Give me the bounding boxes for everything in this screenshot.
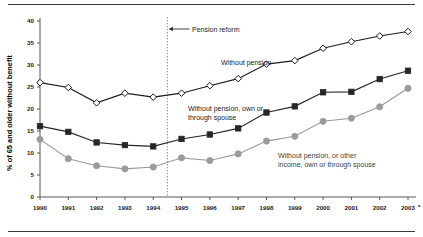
x-tick-label: 1999 bbox=[288, 204, 302, 211]
data-point-marker bbox=[349, 89, 354, 94]
data-point-marker bbox=[376, 33, 383, 40]
x-tick-label: 2001 bbox=[345, 204, 359, 211]
data-point-marker bbox=[292, 104, 297, 109]
annotation-series2-line1: Without pension, own or bbox=[188, 105, 264, 113]
data-point-marker bbox=[292, 133, 298, 139]
data-point-marker bbox=[65, 84, 72, 91]
data-point-marker bbox=[207, 132, 212, 137]
data-point-marker bbox=[320, 118, 326, 124]
y-tick-label: 10 bbox=[27, 149, 34, 156]
data-point-marker bbox=[65, 156, 71, 162]
data-point-marker bbox=[122, 166, 128, 172]
y-tick-label: 5 bbox=[31, 171, 35, 178]
plot-area: % of 65 and older without benefit 051015… bbox=[0, 8, 423, 230]
y-tick-label: 40 bbox=[27, 17, 34, 24]
data-point-marker bbox=[405, 68, 410, 73]
x-tick-label: 2002 bbox=[373, 204, 387, 211]
data-point-marker bbox=[94, 163, 100, 169]
data-series-group bbox=[37, 28, 412, 172]
y-axis-label: % of 65 and older without benefit bbox=[5, 55, 14, 171]
data-point-marker bbox=[377, 104, 383, 110]
data-point-marker bbox=[320, 45, 327, 52]
annotation-pension-reform: Pension reform bbox=[192, 26, 240, 33]
data-point-marker bbox=[37, 79, 44, 86]
data-point-marker bbox=[264, 110, 269, 115]
x-tick-label: 1991 bbox=[61, 204, 75, 211]
bottom-rule bbox=[8, 231, 415, 232]
x-tick-footnote-marker: a bbox=[418, 203, 421, 208]
pension-reform-marker bbox=[167, 17, 189, 197]
data-point-marker bbox=[405, 85, 411, 91]
y-tick-label: 35 bbox=[27, 39, 34, 46]
data-point-marker bbox=[37, 136, 43, 142]
data-point-marker bbox=[235, 126, 240, 131]
data-point-marker bbox=[207, 157, 213, 163]
data-point-marker bbox=[348, 38, 355, 45]
x-tick-label: 1996 bbox=[203, 204, 217, 211]
data-point-marker bbox=[150, 94, 157, 101]
data-point-marker bbox=[235, 151, 241, 157]
data-point-marker bbox=[235, 75, 242, 82]
x-tick-label: 2000 bbox=[316, 204, 330, 211]
y-tick-label: 20 bbox=[27, 105, 34, 112]
top-rule bbox=[8, 4, 415, 5]
x-tick-label: 1992 bbox=[90, 204, 104, 211]
data-point-marker bbox=[291, 57, 298, 64]
x-axis-ticks: 1990199119921993199419951996199719981999… bbox=[33, 197, 421, 211]
data-point-marker bbox=[178, 90, 185, 97]
data-point-marker bbox=[348, 115, 354, 121]
annotation-without-pension: Without pension bbox=[221, 59, 271, 67]
x-tick-label: 1995 bbox=[175, 204, 189, 211]
data-point-marker bbox=[179, 136, 184, 141]
data-point-marker bbox=[405, 28, 412, 35]
annotation-series3-line1: Without pension, or other bbox=[278, 152, 357, 160]
y-tick-label: 15 bbox=[27, 127, 34, 134]
x-tick-label: 1990 bbox=[33, 204, 47, 211]
data-point-marker bbox=[320, 90, 325, 95]
data-point-marker bbox=[263, 138, 269, 144]
data-point-marker bbox=[66, 129, 71, 134]
x-tick-label: 1994 bbox=[146, 204, 160, 211]
x-tick-label: 1993 bbox=[118, 204, 132, 211]
series-1 bbox=[37, 28, 412, 106]
reform-arrow-head bbox=[169, 27, 173, 31]
annotation-series3-line2: income, own or through spouse bbox=[278, 161, 376, 169]
x-tick-label: 1998 bbox=[260, 204, 274, 211]
data-point-marker bbox=[93, 100, 100, 107]
y-tick-label: 25 bbox=[27, 83, 34, 90]
y-axis-ticks: 0510152025303540 bbox=[27, 17, 40, 200]
x-tick-label: 2003 bbox=[401, 204, 415, 211]
y-tick-label: 30 bbox=[27, 61, 34, 68]
data-point-marker bbox=[150, 164, 156, 170]
data-point-marker bbox=[94, 140, 99, 145]
data-point-marker bbox=[122, 90, 129, 97]
data-point-marker bbox=[151, 144, 156, 149]
data-point-marker bbox=[37, 123, 42, 128]
y-tick-label: 0 bbox=[31, 193, 35, 200]
data-point-marker bbox=[178, 155, 184, 161]
data-point-marker bbox=[122, 142, 127, 147]
x-tick-label: 1997 bbox=[231, 204, 245, 211]
data-point-marker bbox=[207, 82, 214, 89]
line-chart: % of 65 and older without benefit 051015… bbox=[0, 8, 423, 230]
data-point-marker bbox=[377, 76, 382, 81]
figure-container: % of 65 and older without benefit 051015… bbox=[0, 0, 423, 237]
annotation-series2-line2: through spouse bbox=[188, 114, 236, 122]
